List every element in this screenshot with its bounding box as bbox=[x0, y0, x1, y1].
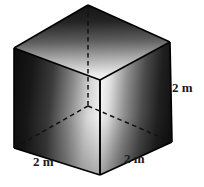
dimension-label-bottom-left-edge: 2 m bbox=[33, 155, 54, 168]
dimension-label-right-edge: 2 m bbox=[172, 81, 193, 94]
dimension-label-bottom-right-edge: 2 m bbox=[124, 152, 145, 165]
cube-figure: 2 m 2 m 2 m bbox=[0, 0, 204, 187]
